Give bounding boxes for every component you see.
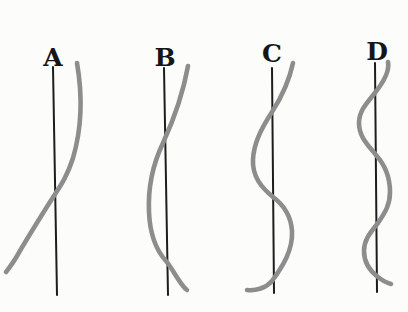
panel-a-axis-line bbox=[53, 67, 57, 295]
panel-c-wave-curve bbox=[247, 63, 293, 290]
panel-b: B bbox=[149, 43, 188, 295]
panel-c: C bbox=[247, 39, 293, 293]
panel-a-wave-curve bbox=[6, 63, 81, 272]
panel-a: A bbox=[6, 43, 81, 295]
panel-b-label: B bbox=[154, 43, 175, 72]
wave-modes-diagram: A B C D bbox=[0, 0, 408, 312]
panel-d-axis-line bbox=[375, 63, 377, 292]
panel-d: D bbox=[359, 37, 391, 292]
panel-b-wave-curve bbox=[149, 66, 188, 290]
figure-canvas: A B C D bbox=[0, 0, 408, 312]
panel-c-axis-line bbox=[272, 68, 274, 293]
panel-d-label: D bbox=[366, 37, 388, 66]
panel-c-label: C bbox=[262, 39, 282, 68]
